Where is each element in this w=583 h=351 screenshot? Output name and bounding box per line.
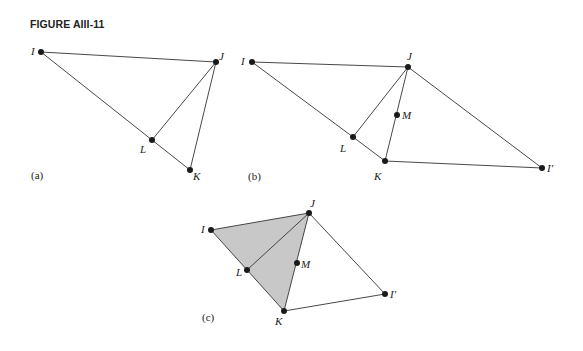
label-I-prime: I′ <box>546 162 554 174</box>
point-I <box>249 59 255 65</box>
edge-LK <box>353 137 385 161</box>
point-K <box>382 158 388 164</box>
label-J: J <box>407 50 413 62</box>
point-I-prime <box>382 291 388 297</box>
label-I-prime: I′ <box>389 288 397 300</box>
label-K: K <box>274 315 283 327</box>
label-M: M <box>401 109 412 121</box>
label-J: J <box>219 50 225 62</box>
point-M <box>394 112 400 118</box>
point-L <box>149 137 155 143</box>
edge-KI-prime <box>284 294 385 311</box>
label-M: M <box>300 258 311 270</box>
edge-KI-prime <box>385 161 542 168</box>
edge-LK <box>152 140 190 170</box>
edge-IJ <box>252 62 408 67</box>
panel-label-b: (b) <box>248 170 261 183</box>
point-I <box>38 49 44 55</box>
panel-b: I J M L K I′ (b) <box>240 50 554 183</box>
point-I-prime <box>539 165 545 171</box>
label-K: K <box>373 170 382 182</box>
point-M <box>294 260 300 266</box>
geometry-diagram: I J L K (a) I J M L K I′ (b) <box>0 0 583 351</box>
label-J: J <box>310 197 316 209</box>
label-I: I <box>30 45 36 57</box>
point-I <box>208 227 214 233</box>
edge-JI-prime <box>309 213 385 294</box>
point-L <box>244 267 250 273</box>
panel-c: I J M L K I′ (c) <box>200 197 397 327</box>
edge-IL <box>252 62 353 137</box>
point-J <box>405 64 411 70</box>
point-J <box>306 210 312 216</box>
edge-JI-prime <box>408 67 542 168</box>
label-L: L <box>139 143 146 155</box>
label-I: I <box>200 223 206 235</box>
point-L <box>350 134 356 140</box>
edge-IJ <box>41 52 216 62</box>
panel-label-a: (a) <box>31 169 44 182</box>
label-K: K <box>192 170 201 182</box>
label-L: L <box>339 142 346 154</box>
label-I: I <box>240 55 246 67</box>
panel-a: I J L K (a) <box>30 45 225 182</box>
label-L: L <box>235 266 242 278</box>
point-K <box>281 308 287 314</box>
panel-label-c: (c) <box>202 311 215 324</box>
edge-IL <box>41 52 152 140</box>
